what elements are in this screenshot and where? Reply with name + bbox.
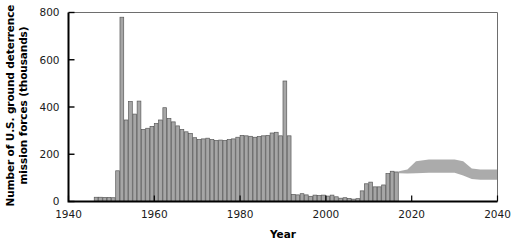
bar [137, 101, 141, 201]
bar [386, 174, 390, 202]
bar [236, 137, 240, 201]
bar [219, 140, 223, 201]
bar [270, 133, 274, 202]
x-tick-label: 2020 [398, 208, 425, 220]
bar [124, 120, 128, 202]
bar [283, 81, 287, 201]
bar [159, 120, 163, 202]
bar [197, 140, 201, 202]
bar [171, 122, 175, 202]
bars-group [94, 17, 398, 201]
projection-band [399, 159, 498, 179]
bar [360, 191, 364, 202]
bar [189, 133, 193, 201]
bar [116, 171, 120, 202]
bar [227, 140, 231, 202]
bar [146, 128, 150, 201]
projection-band-shape [399, 159, 498, 179]
bar [163, 108, 167, 202]
bar [120, 17, 124, 201]
x-tick-label: 1960 [141, 208, 168, 220]
bar [232, 139, 236, 202]
bar [300, 194, 304, 202]
bar [365, 184, 369, 202]
y-tick-label: 200 [39, 148, 59, 160]
bar [240, 135, 244, 201]
bar [193, 138, 197, 202]
bar [395, 172, 399, 202]
bar [390, 171, 394, 201]
bar [214, 141, 218, 202]
bar [369, 182, 373, 201]
bar [377, 187, 381, 202]
bar [262, 136, 266, 202]
bar [257, 137, 261, 202]
x-tick-label: 2000 [313, 208, 340, 220]
bar [180, 129, 184, 201]
bar [249, 136, 253, 201]
bar [279, 136, 283, 202]
bar [167, 118, 171, 201]
bar [244, 136, 248, 202]
bar [292, 194, 296, 201]
chart-figure: Number of U.S. ground deterrence mission… [0, 0, 515, 246]
y-tick-label: 400 [39, 101, 59, 113]
bar [133, 114, 137, 201]
bar [266, 135, 270, 201]
y-tick-label: 600 [39, 54, 59, 66]
x-tick-label: 1980 [227, 208, 254, 220]
bar [201, 139, 205, 202]
x-tick-label: 2040 [484, 208, 511, 220]
bar [141, 129, 145, 201]
bar [253, 137, 257, 201]
bar [150, 126, 154, 201]
bar [274, 132, 278, 201]
bar [129, 102, 133, 202]
bar [184, 132, 188, 202]
bar [223, 141, 227, 202]
bar [287, 136, 291, 202]
bar [154, 124, 158, 202]
y-tick-label: 800 [39, 6, 59, 18]
bar [382, 185, 386, 202]
bar [210, 140, 214, 202]
bar [176, 126, 180, 202]
bar [373, 187, 377, 202]
chart-plot-area: 0200400600800194019601980200020202040 [0, 0, 515, 246]
x-tick-label: 1940 [55, 208, 82, 220]
bar [206, 138, 210, 201]
y-tick-label: 0 [53, 195, 60, 207]
